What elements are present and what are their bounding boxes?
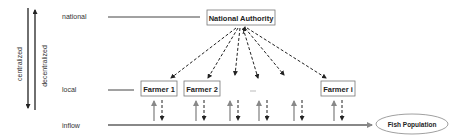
level-national-label: national — [62, 13, 87, 20]
farmer-flows — [154, 100, 342, 121]
directive-arrow-farmer-1 — [171, 28, 236, 78]
farmer-1-label: Farmer 1 — [143, 85, 175, 94]
farmer-i-label: Farmer i — [323, 85, 353, 94]
national-authority-label: National Authority — [209, 14, 275, 23]
farmer-node-1: Farmer 1 — [141, 81, 177, 96]
farmer-node-i: Farmer i — [321, 81, 355, 96]
farmer-node-2: Farmer 2 — [184, 81, 220, 96]
fish-population-label: Fish Population — [388, 121, 437, 129]
decentralized-label: decentralized — [41, 45, 48, 87]
farmer-2-label: Farmer 2 — [186, 85, 218, 94]
governance-diagram: centralized decentralized national local… — [0, 0, 456, 139]
directive-arrow-farmer-i — [247, 28, 326, 78]
national-authority-node: National Authority — [207, 10, 275, 25]
fish-population-node: Fish Population — [376, 114, 448, 134]
directive-arrow-5 — [245, 28, 284, 75]
decentralized-axis: decentralized — [35, 10, 48, 110]
authority-directives — [171, 27, 326, 78]
directive-arrow-3 — [235, 28, 240, 75]
directive-arrow-4 — [243, 28, 258, 78]
directive-arrow-farmer-2 — [208, 28, 238, 78]
centralized-label: centralized — [16, 47, 23, 81]
level-inflow-label: inflow — [62, 122, 81, 129]
centralized-axis: centralized — [16, 8, 28, 108]
level-local-label: local — [62, 86, 77, 93]
